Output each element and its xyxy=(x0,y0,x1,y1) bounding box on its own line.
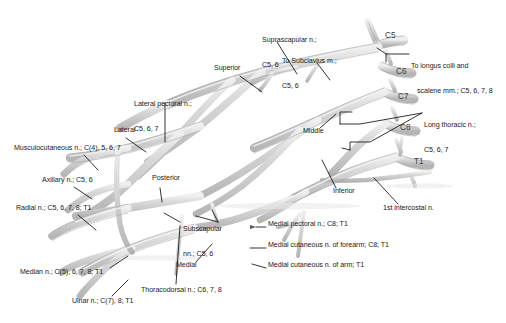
cord-label-lateral: Lateral xyxy=(114,126,135,134)
label-thoracodorsal: Thoracodorsal n.; C6, 7, 8 xyxy=(141,286,222,294)
label-radial: Radial n.; C5, 6, 7, 8; T1 xyxy=(16,204,91,212)
label-first-intercostal: 1st intercostal n. xyxy=(383,204,434,212)
label-subscapular-line2: nn.; C5, 6 xyxy=(183,250,222,258)
figure-canvas: C5 C6 C7 C8 T1 Superior Middle Inferior … xyxy=(0,0,506,323)
label-long-thoracic-line1: Long thoracic n.; xyxy=(424,121,476,129)
label-medial-cutaneous-arm: Medial cutaneous n. of arm; T1 xyxy=(268,261,364,269)
root-label-c6: C6 xyxy=(396,67,406,76)
label-medial-cutaneous-forearm: Medial cutaneous n. of forearm; C8; T1 xyxy=(268,241,389,249)
leader-subscapular xyxy=(164,213,180,222)
root-label-c5: C5 xyxy=(385,31,395,40)
label-to-subclavius: To Subclavius m.; C5, 6 xyxy=(282,40,337,107)
leader-mc-arm xyxy=(252,264,266,268)
root-label-c8: C8 xyxy=(400,123,410,132)
label-lateral-pectoral-line1: Lateral pectoral n.; xyxy=(134,100,192,108)
label-long-thoracic-line2: C5, 6, 7 xyxy=(424,146,476,154)
root-label-t1: T1 xyxy=(414,157,424,166)
label-long-thoracic: Long thoracic n.; C5, 6, 7 xyxy=(424,104,476,171)
label-median: Median n.; C(5), 6, 7, 8; T1 xyxy=(20,268,103,276)
leader-ulnar xyxy=(112,280,128,296)
leader-first-intercostal xyxy=(374,178,398,204)
trunk-label-superior: Superior xyxy=(214,64,240,72)
label-medial-pectoral: Medial pectoral n.; C8; T1 xyxy=(268,220,348,228)
label-subscapular-line1: Subscapular xyxy=(183,225,222,233)
cord-label-posterior: Posterior xyxy=(152,174,180,182)
label-musculocutaneous: Musculocutaneous n.; C(4), 5, 6, 7 xyxy=(14,144,121,152)
label-ulnar: Ulnar n.; C(7), 8; T1 xyxy=(72,297,134,305)
label-to-subclavius-line2: C5, 6 xyxy=(282,82,337,90)
label-to-longus-colli: To longus colli and scalene mm.; C5, 6, … xyxy=(411,45,493,112)
label-lateral-pectoral-line2: C5, 6, 7 xyxy=(134,125,192,133)
trunk-label-middle: Middle xyxy=(303,127,324,135)
trunk-label-inferior: Inferior xyxy=(333,187,355,195)
label-lateral-pectoral: Lateral pectoral n.; C5, 6, 7 xyxy=(134,83,192,150)
label-to-longus-colli-line1: To longus colli and xyxy=(411,62,493,70)
label-axillary: Axillary n.; C5, 6 xyxy=(42,176,93,184)
label-to-subclavius-line1: To Subclavius m.; xyxy=(282,57,337,65)
root-label-c7: C7 xyxy=(398,92,408,101)
label-to-longus-colli-line2: scalene mm.; C5, 6, 7, 8 xyxy=(411,87,493,95)
label-subscapular: Subscapular nn.; C5, 6 xyxy=(183,208,222,275)
